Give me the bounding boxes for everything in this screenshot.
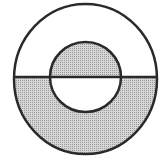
concentric-circles-diagram (0, 0, 167, 162)
